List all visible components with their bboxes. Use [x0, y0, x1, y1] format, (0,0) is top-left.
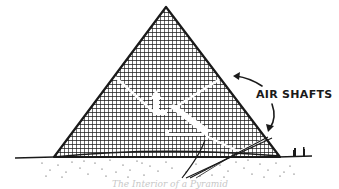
people-figures — [293, 147, 305, 156]
air-shafts-label: AIR SHAFTS — [256, 88, 333, 101]
arrow-to-lower-shaft — [270, 104, 274, 128]
pyramid-diagram: AIR SHAFTS The Interior of a Pyramid — [0, 0, 339, 189]
arrow-to-upper-shaft — [236, 76, 262, 86]
queens-chamber — [166, 133, 204, 136]
figure-caption: The Interior of a Pyramid — [105, 180, 235, 189]
pyramid-body — [54, 7, 280, 157]
